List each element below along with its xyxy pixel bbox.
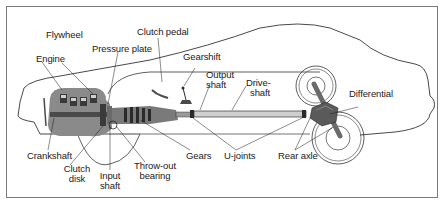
label-clutch-disk: Clutch disk <box>62 164 92 184</box>
label-differential: Differential <box>349 89 393 99</box>
engine-fan <box>44 98 46 126</box>
label-pressure-plate: Pressure plate <box>92 44 152 54</box>
crankshaft <box>50 112 108 117</box>
u-joint-front <box>190 110 194 118</box>
label-engine: Engine <box>36 54 65 64</box>
label-driveshaft: Drive- shaft <box>246 78 271 98</box>
label-input-shaft-line2: shaft <box>97 181 123 191</box>
label-throwout-bearing: Throw-out bearing <box>133 161 177 181</box>
label-gears: Gears <box>186 151 211 161</box>
driveshaft <box>194 111 306 117</box>
u-joint-rear <box>302 110 306 118</box>
label-clutch-disk-line2: disk <box>62 174 92 184</box>
label-crankshaft: Crankshaft <box>27 151 72 161</box>
label-flywheel: Flywheel <box>46 30 83 40</box>
label-u-joints: U-joints <box>224 151 255 161</box>
label-rear-axle: Rear axle <box>278 151 318 161</box>
label-gearshift: Gearshift <box>183 52 221 62</box>
label-throwout-bearing-line2: bearing <box>133 171 177 181</box>
label-output-shaft: Output shaft <box>206 70 234 90</box>
label-output-shaft-line2: shaft <box>206 80 234 90</box>
gearshift-lever <box>183 88 186 100</box>
gearshift-base <box>180 100 192 104</box>
gearshift-knob <box>182 87 185 90</box>
label-clutch-pedal: Clutch pedal <box>137 27 189 37</box>
label-driveshaft-line2: shaft <box>246 88 271 98</box>
clutch-pedal <box>152 90 168 98</box>
flywheel <box>100 104 106 126</box>
label-input-shaft: Input shaft <box>97 171 123 191</box>
